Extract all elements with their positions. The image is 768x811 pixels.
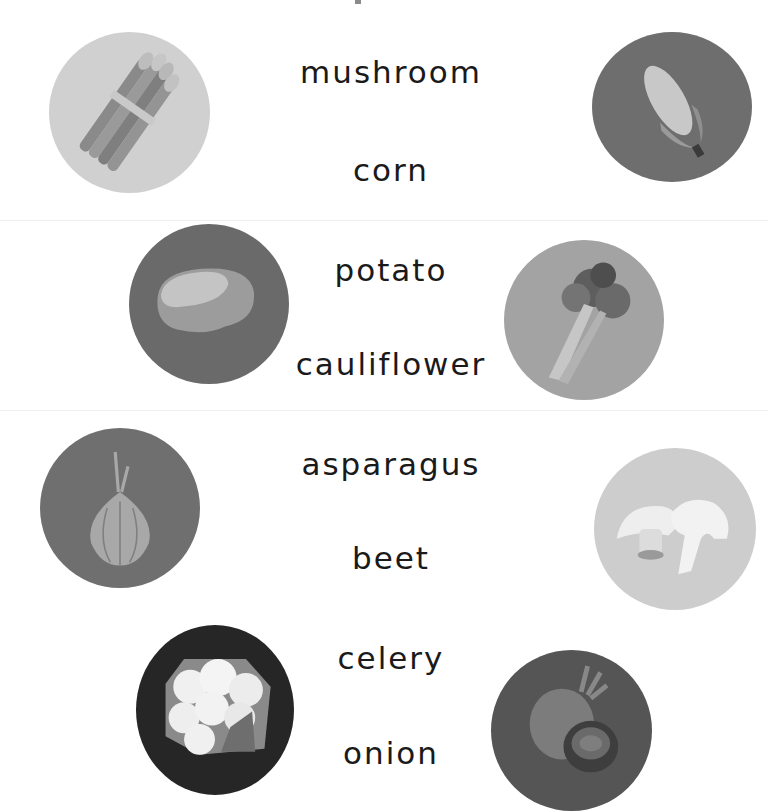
mushroom-icon (594, 448, 756, 610)
beet-icon (491, 650, 652, 811)
onion-picture (40, 428, 200, 588)
cauliflower-picture (136, 625, 294, 795)
beet-picture (491, 650, 652, 811)
row-divider (0, 410, 768, 411)
cauliflower-icon (136, 625, 294, 795)
word-label: onion (0, 735, 768, 771)
asparagus-icon (49, 32, 210, 193)
onion-icon (40, 428, 200, 588)
celery-icon (504, 240, 664, 400)
mushroom-picture (594, 448, 756, 610)
celery-picture (504, 240, 664, 400)
corn-picture (592, 32, 752, 182)
word-label: celery (0, 640, 768, 676)
potato-icon (129, 224, 289, 384)
corn-icon (592, 32, 752, 182)
asparagus-picture (49, 32, 210, 193)
potato-picture (129, 224, 289, 384)
top-mark (355, 0, 361, 4)
row-divider (0, 220, 768, 221)
